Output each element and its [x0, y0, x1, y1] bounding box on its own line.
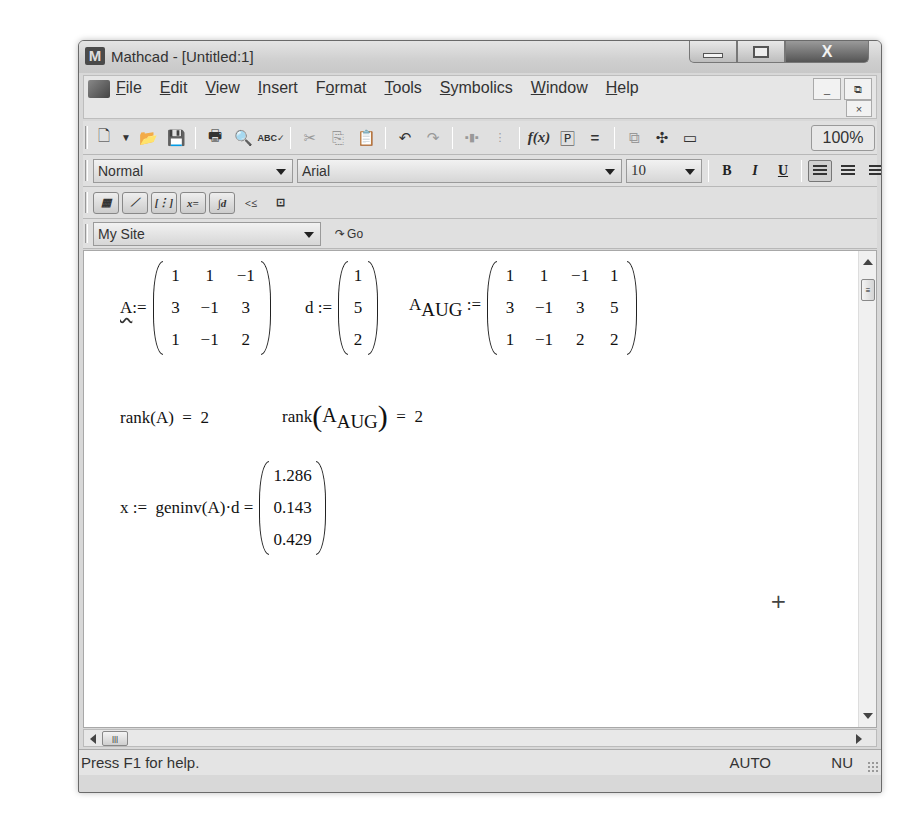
italic-button[interactable]: I [743, 160, 767, 182]
horizontal-scroll-thumb[interactable]: ||| [102, 731, 128, 746]
font-select[interactable]: Arial [297, 159, 622, 183]
align-center-icon [841, 165, 855, 177]
save-icon[interactable]: 💾 [165, 127, 187, 149]
close-button[interactable]: X [785, 41, 869, 63]
doc-minimize-button[interactable]: _ [813, 78, 841, 100]
document-icon[interactable] [88, 80, 110, 98]
align-across-icon[interactable]: ▪▮▪ [461, 127, 483, 149]
insert-unit-icon[interactable]: 🄿 [556, 127, 578, 149]
style-select[interactable]: Normal [93, 159, 293, 183]
left-paren [338, 261, 348, 355]
menu-edit[interactable]: Edit [160, 79, 188, 97]
right-paren [261, 261, 271, 355]
matrix-toolbar-button[interactable]: [⋮] [151, 192, 177, 214]
menu-symbolics[interactable]: Symbolics [440, 79, 513, 97]
title-bar[interactable]: M Mathcad - [Untitled:1] X [79, 41, 881, 73]
vertical-scroll-thumb[interactable]: ≡ [861, 279, 875, 301]
font-size-select[interactable]: 10 [626, 159, 702, 183]
mathcad-app-icon[interactable]: M [85, 47, 105, 65]
copy-icon[interactable]: ⎘ [327, 127, 349, 149]
doc-restore-button[interactable]: ⧉ [844, 78, 872, 100]
menu-help[interactable]: Help [606, 79, 639, 97]
vector-d-cell: 5 [351, 297, 365, 319]
solution-evaluation[interactable]: x := geninv(A)·d = 1.2860.1430.429 [120, 461, 326, 555]
chevron-down-icon [685, 169, 695, 175]
matrix-AAUG-cell: 2 [607, 329, 621, 351]
align-down-icon[interactable]: ⋮ [489, 127, 511, 149]
vertical-scrollbar[interactable]: ≡ [858, 251, 876, 727]
programming-toolbar-button[interactable]: ⊡ [267, 192, 293, 214]
insert-component-icon[interactable]: ⧉ [623, 127, 645, 149]
menu-view[interactable]: View [205, 79, 239, 97]
menu-insert[interactable]: Insert [258, 79, 298, 97]
scroll-down-icon[interactable] [863, 713, 873, 719]
site-select[interactable]: My Site [93, 222, 321, 246]
print-icon[interactable]: 🖶 [204, 127, 226, 149]
matrix-A-cell: 3 [169, 297, 183, 319]
menu-window[interactable]: Window [531, 79, 588, 97]
rank-arg: A [322, 404, 336, 426]
align-right-button[interactable] [864, 160, 882, 182]
go-label: Go [347, 227, 363, 241]
cut-icon[interactable]: ✂ [299, 127, 321, 149]
resources-toolbar: My Site ↷ Go [83, 219, 389, 249]
rank-A-evaluation[interactable]: rank(A) = 2 [120, 408, 209, 428]
menu-format[interactable]: Format [316, 79, 367, 97]
font-size-value: 10 [631, 162, 646, 179]
menu-file[interactable]: File [116, 79, 142, 97]
rank-arg: A [156, 408, 168, 427]
insert-function-icon[interactable]: f(x) [528, 127, 550, 149]
toolbar-grip[interactable] [85, 224, 88, 243]
menu-tools[interactable]: Tools [385, 79, 422, 97]
print-preview-icon[interactable]: 🔍 [232, 127, 254, 149]
chevron-down-icon [276, 169, 286, 175]
zoom-level-select[interactable]: 100% [811, 125, 875, 151]
maximize-button[interactable] [737, 41, 785, 63]
calculate-icon[interactable]: = [584, 127, 606, 149]
new-icon[interactable]: 🗋 [93, 127, 115, 149]
graph-toolbar-button[interactable]: ⟋ [122, 192, 148, 214]
calculus-toolbar-button[interactable]: ∫d [209, 192, 235, 214]
rank-AAUG-evaluation[interactable]: rank(AAUG) = 2 [282, 401, 423, 433]
align-left-button[interactable] [808, 160, 832, 182]
boolean-toolbar-button[interactable]: <≤ [238, 192, 264, 214]
calculator-toolbar-button[interactable]: ▦ [93, 192, 119, 214]
left-paren [487, 261, 497, 355]
resource-icon[interactable]: ✣ [651, 127, 673, 149]
scroll-left-icon[interactable] [90, 734, 96, 744]
toolbar-grip[interactable] [85, 192, 88, 213]
toolbar-grip[interactable] [85, 160, 88, 181]
matrix-AAUG-cell: 1 [503, 329, 517, 351]
toolbar-separator [195, 127, 196, 149]
matrix-A-definition[interactable]: A:= 11−13−131−12 [120, 261, 271, 355]
bold-button[interactable]: B [715, 160, 739, 182]
underline-button[interactable]: U [771, 160, 795, 182]
vector-d-definition[interactable]: d := 152 [305, 261, 378, 355]
redo-icon[interactable]: ↷ [422, 127, 444, 149]
left-paren [259, 461, 269, 555]
align-center-button[interactable] [836, 160, 860, 182]
paste-icon[interactable]: 📋 [355, 127, 377, 149]
scroll-up-icon[interactable] [863, 259, 873, 265]
doc-close-button[interactable]: × [846, 100, 872, 117]
horizontal-scrollbar[interactable]: ||| [83, 729, 877, 747]
close-icon: X [822, 43, 833, 61]
open-icon[interactable]: 📂 [137, 127, 159, 149]
undo-icon[interactable]: ↶ [394, 127, 416, 149]
matrix-A-cell: 3 [237, 297, 255, 319]
spell-check-icon[interactable]: ABC✓ [260, 127, 282, 149]
toolbar-grip[interactable] [85, 126, 88, 149]
evaluation-toolbar-button[interactable]: x= [180, 192, 206, 214]
go-button[interactable]: ↷ Go [335, 227, 363, 241]
standard-toolbar: 🗋 ▼ 📂 💾 🖶 🔍 ABC✓ ✂ ⎘ 📋 ↶ ↷ ▪▮▪ ⋮ f(x) 🄿 … [83, 121, 877, 155]
minimize-button[interactable] [689, 41, 737, 63]
status-calc-mode: AUTO [730, 754, 771, 771]
window-icon[interactable]: ▭ [679, 127, 701, 149]
solution-vector-cell: 1.286 [273, 465, 311, 487]
resize-grip-icon[interactable] [867, 761, 879, 773]
worksheet-area[interactable]: A:= 11−13−131−12 d := 152 AAUG := 11−113… [83, 250, 877, 728]
toolbar-separator [801, 160, 802, 182]
scroll-right-icon[interactable] [856, 734, 862, 744]
dropdown-icon[interactable]: ▼ [121, 127, 131, 149]
matrix-AAUG-definition[interactable]: AAUG := 11−113−1351−122 [409, 261, 637, 355]
